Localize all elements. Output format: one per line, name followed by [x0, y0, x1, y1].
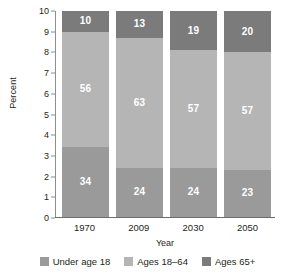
y-tick-mark — [51, 135, 55, 136]
bar-column-1970[interactable]: 105634 — [62, 11, 109, 217]
y-tick-mark — [51, 197, 55, 198]
legend-label: Ages 65+ — [215, 256, 255, 267]
x-axis-title: Year — [55, 238, 275, 248]
x-axis-ticks: 1970200920302050 — [55, 222, 275, 236]
y-tick-label: 9 — [27, 27, 49, 37]
bar-segment: 13 — [116, 11, 163, 38]
bar-value-label: 57 — [242, 106, 254, 116]
bar-group: 105634136324195724205723 — [56, 11, 275, 217]
y-axis-title: Percent — [8, 58, 18, 128]
x-tick-label: 2030 — [170, 222, 217, 236]
stacked-bar-chart: Percent 109876543210 1056341363241957242… — [0, 0, 295, 275]
y-tick-label: 10 — [27, 6, 49, 16]
plot-area: 109876543210 105634136324195724205723 — [55, 11, 275, 218]
y-tick-mark — [51, 114, 55, 115]
bar-value-label: 56 — [80, 84, 92, 94]
bar-segment: 20 — [224, 11, 271, 52]
chart-legend: Under age 18Ages 18–64Ages 65+ — [0, 256, 295, 267]
y-tick-mark — [51, 155, 55, 156]
y-tick-label: 8 — [27, 47, 49, 57]
bar-segment: 34 — [62, 147, 109, 217]
bar-segment: 24 — [116, 168, 163, 217]
y-tick-mark — [51, 73, 55, 74]
x-tick-label: 1970 — [61, 222, 108, 236]
y-tick-mark — [51, 31, 55, 32]
y-tick-label: 0 — [27, 213, 49, 223]
bar-value-label: 24 — [134, 187, 146, 197]
bar-value-label: 24 — [188, 187, 200, 197]
bar-column-2030[interactable]: 195724 — [170, 11, 217, 217]
legend-item[interactable]: Ages 18–64 — [124, 256, 188, 267]
legend-label: Ages 18–64 — [137, 256, 188, 267]
bar-segment: 24 — [170, 168, 217, 217]
legend-item[interactable]: Ages 65+ — [202, 256, 255, 267]
y-tick-label: 5 — [27, 110, 49, 120]
bar-value-label: 34 — [80, 177, 92, 187]
legend-swatch-icon — [40, 257, 49, 266]
bar-segment: 57 — [224, 52, 271, 169]
bar-value-label: 19 — [188, 26, 200, 36]
x-axis-line — [55, 217, 275, 218]
y-tick-label: 2 — [27, 172, 49, 182]
y-tick-label: 6 — [27, 89, 49, 99]
bar-value-label: 23 — [242, 188, 254, 198]
legend-swatch-icon — [202, 257, 211, 266]
y-tick-label: 1 — [27, 192, 49, 202]
y-tick-mark — [51, 93, 55, 94]
bar-value-label: 20 — [242, 27, 254, 37]
bar-column-2009[interactable]: 136324 — [116, 11, 163, 217]
bar-value-label: 13 — [134, 19, 146, 29]
bar-column-2050[interactable]: 205723 — [224, 11, 271, 217]
y-tick-label: 3 — [27, 151, 49, 161]
bar-segment: 57 — [170, 50, 217, 167]
bar-segment: 63 — [116, 38, 163, 168]
x-tick-label: 2009 — [115, 222, 162, 236]
legend-label: Under age 18 — [53, 256, 111, 267]
legend-swatch-icon — [124, 257, 133, 266]
y-tick-label: 7 — [27, 68, 49, 78]
bar-value-label: 57 — [188, 104, 200, 114]
y-tick-label: 4 — [27, 130, 49, 140]
y-tick-mark — [51, 52, 55, 53]
x-tick-label: 2050 — [224, 222, 271, 236]
y-tick-mark — [51, 218, 55, 219]
legend-item[interactable]: Under age 18 — [40, 256, 111, 267]
y-tick-mark — [51, 11, 55, 12]
bar-value-label: 63 — [134, 98, 146, 108]
bar-segment: 19 — [170, 11, 217, 50]
bar-value-label: 10 — [80, 16, 92, 26]
bar-segment: 56 — [62, 32, 109, 147]
y-tick-mark — [51, 176, 55, 177]
bar-segment: 10 — [62, 11, 109, 32]
bar-segment: 23 — [224, 170, 271, 217]
